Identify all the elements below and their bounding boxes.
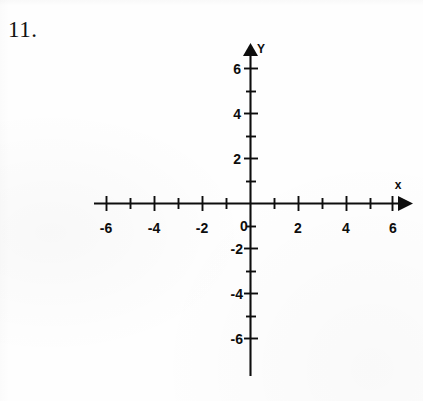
- x-tick-label-minus4: -4: [148, 220, 161, 236]
- x-tick-label-4: 4: [342, 220, 350, 236]
- y-tick-label-2: 2: [233, 151, 241, 167]
- x-axis-label: x: [395, 178, 402, 192]
- origin-label: 0: [240, 218, 248, 234]
- x-tick-label-minus6: -6: [100, 220, 113, 236]
- y-tick-label-minus4: -4: [231, 286, 244, 302]
- y-tick-label-4: 4: [233, 106, 241, 122]
- coordinate-plane-svg: x Y -6 -4 -2 0 2 4 6 6 4 2 -2 -4 -6: [0, 0, 423, 401]
- x-tick-label-6: 6: [389, 220, 397, 236]
- y-axis-arrow-icon: [243, 43, 258, 56]
- worksheet-page: 11.: [0, 0, 423, 401]
- y-tick-label-minus6: -6: [231, 331, 244, 347]
- y-axis-label: Y: [257, 42, 265, 56]
- y-tick-label-6: 6: [233, 61, 241, 77]
- x-tick-label-2: 2: [294, 220, 302, 236]
- x-tick-label-minus2: -2: [196, 220, 209, 236]
- coordinate-plane: x Y -6 -4 -2 0 2 4 6 6 4 2 -2 -4 -6: [0, 0, 423, 401]
- x-axis-arrow-icon: [398, 196, 413, 211]
- y-tick-label-minus2: -2: [231, 241, 244, 257]
